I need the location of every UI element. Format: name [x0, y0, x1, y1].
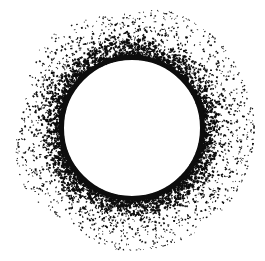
particle-ring-figure	[0, 0, 265, 261]
artwork-canvas: Stippled Ring	[0, 0, 265, 261]
